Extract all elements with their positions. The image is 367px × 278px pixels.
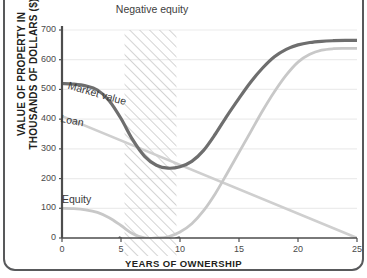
gridlines (62, 30, 357, 208)
axes (62, 26, 357, 238)
x-tick-label: 15 (228, 244, 250, 254)
series-label-equity: Equity (62, 193, 91, 205)
x-tick-label: 25 (346, 244, 367, 254)
x-tick-label: 10 (169, 244, 191, 254)
x-tick-label: 0 (51, 244, 73, 254)
x-tick-label: 20 (287, 244, 309, 254)
y-tick-label: 200 (30, 173, 56, 183)
negative-equity-chart-figure: Negative equity VALUE OF PROPERTY IN THO… (0, 0, 367, 278)
y-tick-label: 700 (30, 24, 56, 34)
y-tick-label: 300 (30, 143, 56, 153)
negative-equity-annotation-label: Negative equity (104, 3, 200, 15)
y-tick-label: 400 (30, 113, 56, 123)
y-tick-label: 100 (30, 202, 56, 212)
y-tick-label: 600 (30, 54, 56, 64)
y-tick-label: 0 (30, 232, 56, 242)
axis-tick-marks (59, 30, 357, 242)
data-series-layer (62, 40, 357, 246)
x-tick-label: 5 (110, 244, 132, 254)
negative-equity-band (125, 30, 177, 256)
y-tick-label: 500 (30, 83, 56, 93)
x-axis-title: YEARS OF OWNERSHIP (0, 258, 367, 269)
